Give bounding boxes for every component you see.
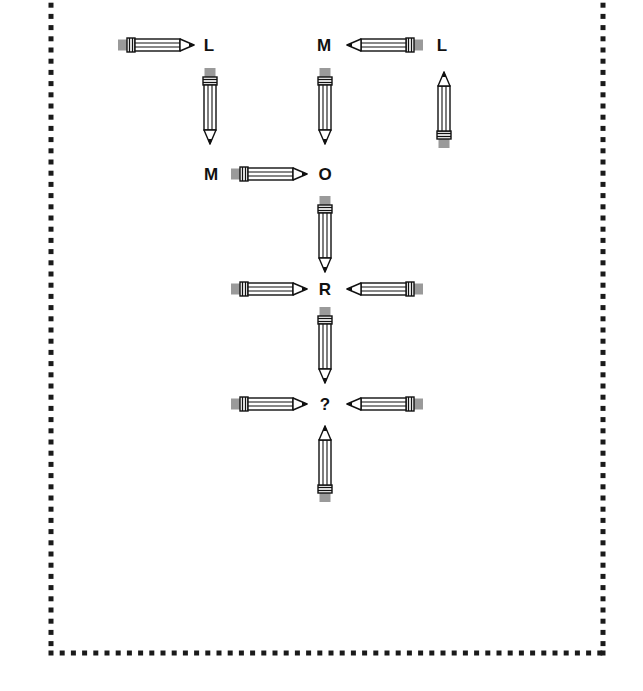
label-o-row2: O: [318, 166, 331, 183]
label-question-mark: ?: [320, 396, 330, 413]
pencil-left-icon: [345, 396, 423, 412]
pencil-up-icon: [436, 70, 452, 148]
pencil-right-icon: [118, 37, 196, 53]
label-m-row2: M: [204, 166, 218, 183]
pencil-down-icon: [317, 307, 333, 385]
label-m-top-center: M: [317, 37, 331, 54]
label-r-row3: R: [319, 281, 331, 298]
pencil-down-icon: [317, 68, 333, 146]
pencil-left-icon: [345, 37, 423, 53]
label-l-top-right: L: [437, 37, 447, 54]
label-l-top-left: L: [204, 37, 214, 54]
pencil-right-icon: [231, 281, 309, 297]
pencil-left-icon: [345, 281, 423, 297]
puzzle-canvas: L M L M O R ?: [0, 0, 643, 691]
pencil-right-icon: [231, 396, 309, 412]
pencil-up-icon: [317, 424, 333, 502]
pencil-down-icon: [202, 68, 218, 146]
pencil-right-icon: [231, 166, 309, 182]
pencil-down-icon: [317, 196, 333, 274]
